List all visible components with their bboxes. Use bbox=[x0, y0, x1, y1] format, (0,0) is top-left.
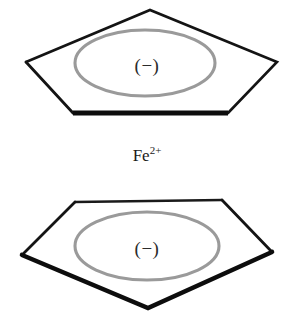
metal-element-symbol: Fe bbox=[133, 146, 150, 165]
ferrocene-diagram: (−) Fe2+ (−) bbox=[0, 0, 294, 315]
lower-ring-back-edge bbox=[75, 200, 222, 202]
lower-ring-charge-label: (−) bbox=[0, 239, 294, 258]
metal-center-label: Fe2+ bbox=[0, 147, 294, 164]
upper-ring-charge-label: (−) bbox=[0, 56, 294, 75]
metal-charge-superscript: 2+ bbox=[150, 144, 162, 156]
